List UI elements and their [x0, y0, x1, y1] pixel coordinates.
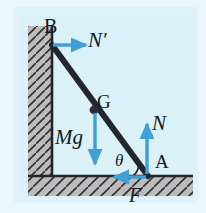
floor — [28, 176, 193, 196]
label-wall-normal-force: N′ — [88, 30, 107, 51]
label-floor-normal-force: N — [152, 113, 166, 134]
label-angle-theta: θ — [115, 152, 123, 169]
label-point-a: A — [155, 152, 169, 171]
label-weight-force: Mg — [55, 127, 83, 148]
label-friction-force: F — [129, 185, 141, 205]
label-point-b: B — [44, 16, 57, 36]
diagram-canvas: B N′ G Mg N A θ F — [0, 0, 206, 213]
floor-hatching — [28, 176, 193, 196]
wall — [28, 26, 52, 178]
wall-hatching — [28, 26, 52, 178]
label-point-g: G — [97, 92, 111, 111]
